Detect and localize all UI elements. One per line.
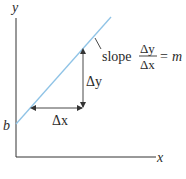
- slope-numerator: Δy: [140, 41, 155, 56]
- slope-diagram: y x b Δx Δy slope Δy Δx = m: [0, 0, 186, 179]
- slope-leader-line: [95, 38, 101, 49]
- slope-equals: =: [160, 49, 168, 64]
- delta-x-label: Δx: [52, 113, 68, 128]
- intercept-label: b: [3, 118, 10, 133]
- x-axis-label: x: [156, 150, 164, 165]
- slope-annotation: slope Δy Δx = m: [102, 41, 182, 72]
- y-axis-label: y: [10, 0, 19, 15]
- slope-result: m: [172, 49, 182, 64]
- slope-denominator: Δx: [140, 57, 155, 72]
- slope-word: slope: [102, 49, 132, 64]
- delta-y-label: Δy: [86, 74, 102, 89]
